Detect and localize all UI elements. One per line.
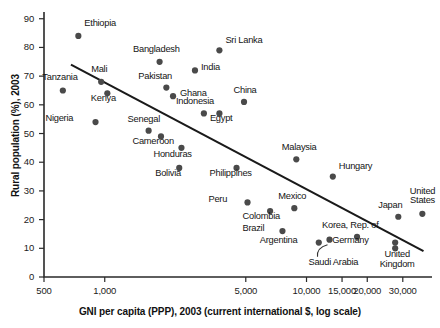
- point-label: Nigeria: [46, 113, 74, 123]
- x-tick-label: 20,000: [353, 285, 381, 296]
- leader-line: [317, 245, 327, 257]
- y-axis-title: Rural population (%), 2003: [10, 36, 21, 236]
- point-label: Pakistan: [138, 71, 172, 81]
- point-label: Bangladesh: [133, 44, 180, 54]
- annotation-leader-line: [317, 245, 327, 257]
- data-point: [293, 156, 299, 162]
- point-label: Mali: [91, 64, 107, 74]
- point-label: Philippines: [210, 168, 252, 178]
- plot-area: [0, 0, 440, 328]
- point-label: Ethiopia: [84, 18, 116, 28]
- point-label: Argentina: [260, 235, 298, 245]
- point-label: Colombia: [243, 211, 280, 221]
- point-label: UnitedStates: [410, 187, 435, 206]
- data-point: [201, 110, 207, 116]
- point-label: India: [201, 62, 220, 72]
- point-label: Mexico: [278, 191, 306, 201]
- y-tick-label: 90: [14, 13, 34, 24]
- axes: [39, 12, 432, 282]
- data-point: [316, 239, 322, 245]
- data-point: [163, 85, 169, 91]
- point-label: Japan: [378, 200, 402, 210]
- point-label: Tanzania: [42, 72, 77, 82]
- point-label: Kenya: [91, 93, 116, 103]
- point-label: Peru: [209, 194, 228, 204]
- point-label: Korea, Rep. of: [322, 220, 378, 230]
- data-point: [98, 79, 104, 85]
- data-point: [146, 128, 152, 134]
- point-label: Honduras: [153, 149, 191, 159]
- data-point: [75, 33, 81, 39]
- data-point: [279, 228, 285, 234]
- point-label: China: [234, 85, 257, 95]
- scatter-chart: 01020304050607080905001,0005,00010,00015…: [0, 0, 440, 328]
- y-tick-label: 10: [14, 242, 34, 253]
- x-tick-label: 1,000: [93, 285, 116, 296]
- point-label: Brazil: [242, 223, 264, 233]
- data-point: [60, 87, 66, 93]
- x-tick-label: 30,000: [389, 285, 417, 296]
- data-point: [291, 205, 297, 211]
- point-label: Hungary: [339, 161, 372, 171]
- point-label: Saudi Arabia: [309, 257, 359, 267]
- data-point: [244, 199, 250, 205]
- y-tick-label: 0: [14, 271, 34, 282]
- point-label: Bolivia: [155, 168, 181, 178]
- x-axis-title: GNI per capita (PPP), 2003 (current inte…: [0, 306, 440, 317]
- point-label: Egypt: [210, 113, 233, 123]
- point-label: Sri Lanka: [225, 35, 262, 45]
- point-label: Indonesia: [176, 96, 214, 106]
- data-point: [192, 67, 198, 73]
- point-label: Malaysia: [282, 142, 317, 152]
- data-point: [419, 211, 425, 217]
- data-point: [241, 99, 247, 105]
- data-point: [395, 214, 401, 220]
- point-label: UnitedKingdom: [380, 250, 415, 269]
- data-point: [156, 59, 162, 65]
- point-label: Cameroon: [132, 136, 173, 146]
- data-point: [392, 239, 398, 245]
- x-tick-label: 10,000: [293, 285, 321, 296]
- data-point: [216, 47, 222, 53]
- x-tick-label: 5,000: [234, 285, 257, 296]
- x-tick-label: 500: [36, 285, 51, 296]
- axis-lines: [44, 12, 432, 277]
- data-point: [330, 173, 336, 179]
- point-label: Germany: [332, 235, 368, 245]
- point-label: Senegal: [128, 114, 160, 124]
- x-tick-label: 15,000: [328, 285, 356, 296]
- data-point: [92, 119, 98, 125]
